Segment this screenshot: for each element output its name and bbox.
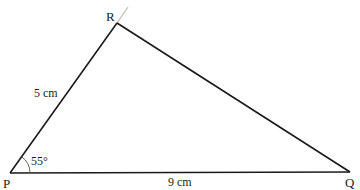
side-pq: [10, 172, 350, 173]
vertex-label-q: Q: [345, 175, 355, 190]
side-label-pr: 5 cm: [34, 86, 58, 100]
side-pr: [10, 23, 117, 173]
angle-arc-p: [22, 157, 30, 173]
vertex-label-p: P: [3, 176, 10, 190]
extension-line-pr: [117, 7, 128, 23]
vertex-label-r: R: [106, 9, 115, 24]
side-label-pq: 9 cm: [168, 175, 192, 189]
triangle-diagram: R P Q 5 cm 9 cm 55°: [0, 0, 360, 190]
side-rq: [117, 23, 350, 172]
angle-label-p: 55°: [31, 154, 48, 168]
